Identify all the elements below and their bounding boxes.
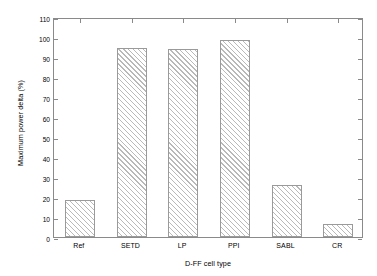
y-tick-mark — [54, 99, 58, 100]
x-tick-mark-top — [183, 19, 184, 23]
y-tick-mark-right — [358, 79, 362, 80]
y-tick-label: 60 — [28, 116, 50, 123]
y-tick-mark — [54, 79, 58, 80]
bar-ref — [65, 200, 95, 237]
y-tick-label: 40 — [28, 156, 50, 163]
y-tick-label: 90 — [28, 56, 50, 63]
y-tick-mark-right — [358, 159, 362, 160]
y-tick-label: 50 — [28, 136, 50, 143]
y-tick-label: 70 — [28, 96, 50, 103]
y-tick-mark-right — [358, 139, 362, 140]
y-tick-mark — [54, 59, 58, 60]
x-tick-label-sabl: SABL — [276, 241, 294, 250]
plot-area: 0102030405060708090100110 — [53, 18, 363, 238]
bar-chart-figure: Maximum power delta (%) 0102030405060708… — [0, 0, 377, 276]
y-tick-mark — [54, 239, 58, 240]
y-tick-mark — [54, 179, 58, 180]
x-tick-label-ppi: PPI — [228, 241, 240, 250]
y-tick-label: 20 — [28, 196, 50, 203]
y-tick-label: 100 — [28, 36, 50, 43]
y-tick-mark-right — [358, 59, 362, 60]
y-tick-label: 80 — [28, 76, 50, 83]
bar-sabl — [272, 185, 302, 237]
y-tick-label: 30 — [28, 176, 50, 183]
x-tick-label-ref: Ref — [73, 241, 84, 250]
y-tick-mark — [54, 119, 58, 120]
y-tick-mark — [54, 219, 58, 220]
y-tick-mark-right — [358, 179, 362, 180]
y-tick-mark-right — [358, 119, 362, 120]
y-tick-mark — [54, 159, 58, 160]
x-tick-mark-top — [287, 19, 288, 23]
y-tick-mark — [54, 19, 58, 20]
y-tick-mark-right — [358, 99, 362, 100]
y-tick-mark — [54, 199, 58, 200]
bar-ppi — [220, 40, 250, 237]
x-tick-mark-top — [338, 19, 339, 23]
bar-lp — [168, 49, 198, 237]
x-tick-label-lp: LP — [178, 241, 187, 250]
y-tick-label: 110 — [28, 16, 50, 23]
bar-setd — [117, 48, 147, 237]
y-tick-label: 10 — [28, 216, 50, 223]
y-tick-mark-right — [358, 19, 362, 20]
x-tick-mark-top — [132, 19, 133, 23]
y-tick-mark — [54, 139, 58, 140]
y-axis-title: Maximum power delta (%) — [14, 8, 28, 238]
x-tick-mark-top — [80, 19, 81, 23]
y-tick-mark-right — [358, 199, 362, 200]
x-tick-mark-top — [235, 19, 236, 23]
x-tick-label-setd: SETD — [121, 241, 140, 250]
y-tick-mark-right — [358, 39, 362, 40]
y-tick-mark — [54, 39, 58, 40]
y-tick-label: 0 — [28, 236, 50, 243]
x-axis-title: D-FF cell type — [53, 259, 363, 268]
bar-cr — [323, 224, 353, 237]
x-tick-label-cr: CR — [332, 241, 342, 250]
y-tick-mark-right — [358, 239, 362, 240]
y-tick-mark-right — [358, 219, 362, 220]
